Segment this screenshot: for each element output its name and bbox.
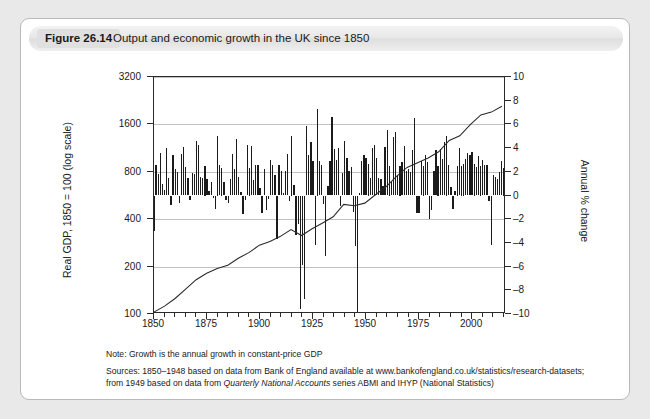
left-tick-label: 1600	[119, 118, 141, 129]
x-tick-minor	[280, 313, 281, 317]
x-tick-minor	[333, 313, 334, 317]
x-tick-label: 1900	[248, 318, 270, 329]
sources-line-2: from 1949 based on data from Quarterly N…	[106, 378, 584, 390]
x-tick-minor	[217, 313, 218, 317]
figure-note: Note: Growth is the annual growth in con…	[106, 349, 322, 359]
x-tick-label: 1850	[142, 318, 164, 329]
left-axis-label: Real GDP, 1850 = 100 (log scale)	[61, 105, 73, 295]
right-tick-label: –2	[513, 213, 524, 224]
x-tick-minor	[344, 313, 345, 317]
left-tick-label: 100	[124, 308, 141, 319]
right-tick-mark	[505, 100, 511, 101]
right-tick-mark	[505, 289, 511, 290]
left-tick-label: 800	[124, 165, 141, 176]
right-tick-mark	[505, 195, 511, 196]
right-tick-label: 6	[513, 118, 519, 129]
x-tick-minor	[238, 313, 239, 317]
x-tick-minor	[301, 313, 302, 317]
right-tick-label: –8	[513, 284, 524, 295]
figure-sources: Sources: 1850–1948 based on data from Ba…	[106, 366, 584, 389]
x-tick-minor	[354, 313, 355, 317]
x-tick-label: 1950	[354, 318, 376, 329]
sources-publication-title: Quarterly National Accounts	[224, 378, 331, 388]
right-tick-mark	[505, 76, 511, 77]
right-tick-label: 8	[513, 94, 519, 105]
x-tick-minor	[397, 313, 398, 317]
sources-line-2-suffix: series ABMI and IHYP (National Statistic…	[330, 378, 494, 388]
right-tick-label: 4	[513, 142, 519, 153]
left-tick-label: 400	[124, 213, 141, 224]
x-tick-minor	[174, 313, 175, 317]
right-tick-label: –4	[513, 236, 524, 247]
x-tick-minor	[450, 313, 451, 317]
chart-container: Real GDP, 1850 = 100 (log scale) Annual …	[21, 19, 631, 401]
figure-card: Figure 26.14 Output and economic growth …	[20, 18, 630, 400]
sources-line-2-prefix: from 1949 based on data from	[106, 378, 224, 388]
x-tick-minor	[323, 313, 324, 317]
x-tick-minor	[291, 313, 292, 317]
right-tick-mark	[505, 218, 511, 219]
left-tick-label: 3200	[119, 71, 141, 82]
left-tick-label: 200	[124, 260, 141, 271]
x-tick-minor	[185, 313, 186, 317]
right-tick-mark	[505, 313, 511, 314]
x-tick-minor	[482, 313, 483, 317]
right-tick-label: –10	[513, 308, 530, 319]
line-series-real-gdp	[154, 77, 504, 312]
x-tick-minor	[408, 313, 409, 317]
right-tick-mark	[505, 242, 511, 243]
x-tick-minor	[503, 313, 504, 317]
right-tick-label: 10	[513, 71, 524, 82]
right-tick-mark	[505, 123, 511, 124]
x-tick-minor	[164, 313, 165, 317]
right-axis-label: Annual % change	[579, 106, 591, 296]
right-tick-mark	[505, 147, 511, 148]
x-tick-minor	[248, 313, 249, 317]
x-tick-minor	[227, 313, 228, 317]
plot-area	[153, 76, 505, 313]
sources-line-1: Sources: 1850–1948 based on data from Ba…	[106, 366, 584, 378]
right-tick-mark	[505, 171, 511, 172]
right-tick-label: 2	[513, 165, 519, 176]
right-tick-mark	[505, 266, 511, 267]
x-tick-minor	[195, 313, 196, 317]
x-tick-minor	[492, 313, 493, 317]
x-tick-label: 1925	[301, 318, 323, 329]
x-tick-minor	[439, 313, 440, 317]
x-tick-minor	[386, 313, 387, 317]
x-tick-label: 1875	[195, 318, 217, 329]
x-tick-minor	[376, 313, 377, 317]
right-tick-label: 0	[513, 189, 519, 200]
x-tick-minor	[270, 313, 271, 317]
x-tick-label: 1975	[407, 318, 429, 329]
x-tick-minor	[429, 313, 430, 317]
x-tick-minor	[461, 313, 462, 317]
x-tick-label: 2000	[460, 318, 482, 329]
right-tick-label: –6	[513, 260, 524, 271]
